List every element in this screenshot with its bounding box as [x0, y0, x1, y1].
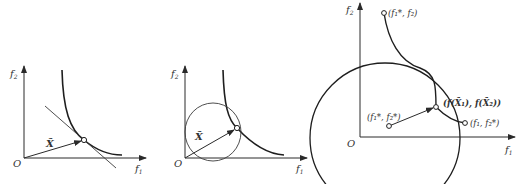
panel-1: f2 f1 O X̃ — [9, 66, 146, 175]
pareto-front-curve — [62, 70, 122, 155]
vector-label: X̃ — [194, 131, 204, 142]
right-point-label: (f₁, f₂*) — [470, 118, 499, 128]
top-point — [382, 11, 387, 16]
y-axis-label: f2 — [9, 68, 18, 80]
x-axis-label: f1 — [504, 144, 513, 156]
y-axis-label: f2 — [345, 4, 354, 16]
vector-label: X̃ — [45, 138, 55, 149]
compromise-point — [234, 125, 239, 130]
ideal-point-label: (f₁*, f₂*) — [367, 112, 401, 122]
origin-label: O — [174, 158, 182, 169]
y-axis-label: f2 — [170, 68, 179, 80]
panel-3: f2 f1 O (f₁*, f₂) (f₁*, f₂*) (f(X̃₁), f(… — [310, 3, 515, 184]
tangent-circle — [185, 103, 241, 161]
large-circle — [310, 63, 460, 184]
compromise-point — [81, 137, 86, 142]
compromise-point-label: (f(X̃₁), f(X̃₂)) — [443, 97, 501, 109]
x-axis-label: f1 — [295, 163, 304, 175]
origin-label: O — [13, 158, 21, 169]
pareto-front-curve — [223, 70, 284, 155]
vector-x — [185, 130, 234, 158]
tangent-line — [45, 106, 116, 168]
ideal-point — [387, 124, 392, 129]
right-point — [463, 121, 468, 126]
x-axis-label: f1 — [134, 163, 143, 175]
compromise-point — [434, 105, 439, 110]
panel-2: f2 f1 O X̃ — [170, 66, 307, 175]
origin-label: O — [347, 138, 355, 149]
top-point-label: (f₁*, f₂) — [388, 8, 417, 18]
figure-canvas: f2 f1 O X̃ f2 f1 O X̃ f2 f1 O (f₁*, f₂) … — [0, 0, 522, 184]
